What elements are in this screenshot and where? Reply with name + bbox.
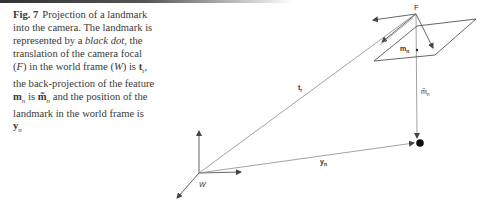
projection-diagram: W tr yn m̃n F mn [0, 0, 489, 211]
world-frame-label: W [199, 181, 207, 188]
landmark-dot [416, 139, 424, 147]
focal-label: F [414, 3, 419, 12]
backprojection-line [416, 14, 417, 138]
translation-line [199, 15, 414, 173]
landmark-position-label: yn [320, 158, 327, 167]
translation-label: tr [298, 84, 302, 93]
image-plane [374, 19, 476, 61]
world-frame-axes [177, 131, 241, 198]
feature-point [416, 49, 418, 51]
camera-axes [373, 14, 433, 48]
feature-label: mn [400, 45, 409, 54]
landmark-position-line [199, 143, 414, 173]
backprojection-label: m̃n [421, 88, 430, 97]
